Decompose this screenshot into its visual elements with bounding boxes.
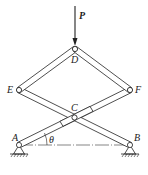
linkage-diagram: P D E F C A B θ — [0, 0, 148, 175]
bar-ed — [18, 47, 77, 93]
label-d: D — [70, 54, 79, 65]
joint-c — [72, 115, 77, 120]
label-c: C — [71, 102, 78, 113]
label-e: E — [6, 84, 13, 95]
label-load: P — [79, 10, 86, 21]
label-a: A — [11, 132, 19, 143]
joint-f — [127, 87, 132, 92]
load-arrow — [73, 6, 78, 46]
label-f: F — [134, 84, 142, 95]
bar-df — [74, 47, 132, 93]
label-theta: θ — [49, 134, 54, 145]
joint-d — [72, 46, 77, 51]
joint-e — [16, 87, 21, 92]
label-b: B — [134, 132, 140, 143]
